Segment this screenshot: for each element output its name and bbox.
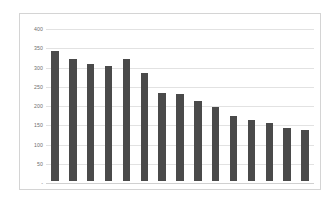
bar	[176, 94, 184, 181]
bar	[51, 51, 59, 181]
bar	[283, 128, 291, 181]
y-axis-tick-label: 50	[37, 161, 43, 167]
plot-area	[46, 14, 314, 189]
bar	[158, 93, 166, 181]
bar	[212, 107, 220, 181]
chart-container: 40035030025020015010050-	[19, 13, 321, 190]
y-axis-tick-label: -	[41, 180, 43, 186]
chart-plot-wrapper: 40035030025020015010050-	[20, 14, 320, 189]
y-axis-tick-label: 200	[34, 103, 43, 109]
bar	[141, 73, 149, 181]
y-axis-tick-label: 150	[34, 122, 43, 128]
bar	[266, 123, 274, 181]
bar	[105, 66, 113, 181]
y-axis-tick-labels: 40035030025020015010050-	[20, 14, 45, 189]
bar-series	[46, 14, 314, 189]
y-axis-tick-label: 400	[34, 26, 43, 32]
bar	[301, 130, 309, 181]
bar	[248, 120, 256, 181]
bar	[123, 59, 131, 181]
y-axis-tick-label: 250	[34, 84, 43, 90]
y-axis-tick-label: 350	[34, 45, 43, 51]
bar	[194, 101, 202, 181]
bar	[87, 64, 95, 181]
y-axis-tick-label: 300	[34, 65, 43, 71]
bar	[230, 116, 238, 181]
bar	[69, 59, 77, 181]
y-axis-tick-label: 100	[34, 142, 43, 148]
